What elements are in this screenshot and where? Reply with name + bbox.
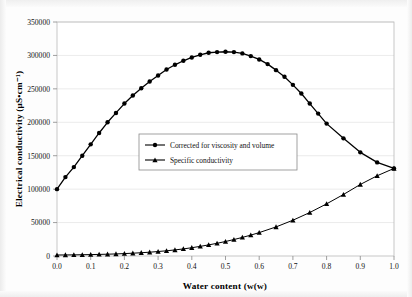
y-tick-label-7: 350000 <box>27 18 50 27</box>
x-tick-label-6: 0.6 <box>254 262 264 271</box>
series-0-marker-30 <box>308 101 312 105</box>
x-tick-label-2: 0.2 <box>120 262 130 271</box>
chart-legend: Corrected for viscosity and volumeSpecif… <box>139 134 297 170</box>
series-0-marker-12 <box>156 73 160 77</box>
line-chart: 0500001000001500002000002500003000003500… <box>0 0 412 297</box>
y-tick-label-0: 0 <box>46 252 50 261</box>
series-0-marker-29 <box>299 91 303 95</box>
series-0-marker-13 <box>164 67 168 71</box>
y-tick-label-5: 250000 <box>27 85 50 94</box>
series-0-marker-31 <box>316 111 320 115</box>
series-0-marker-14 <box>173 63 177 67</box>
series-0-marker-25 <box>265 62 269 66</box>
series-0-marker-3 <box>80 154 84 158</box>
series-0-marker-0 <box>55 187 59 191</box>
series-0-marker-8 <box>122 101 126 105</box>
series-0-marker-18 <box>206 51 210 55</box>
legend-label-1: Specific conductivity <box>170 156 233 165</box>
series-0-marker-33 <box>341 136 345 140</box>
series-0-marker-21 <box>232 50 236 54</box>
y-tick-label-6: 300000 <box>27 51 50 60</box>
y-axis-ticks: 0500001000001500002000002500003000003500… <box>27 18 57 261</box>
series-0-marker-17 <box>198 53 202 57</box>
series-0-marker-11 <box>147 79 151 83</box>
series-0-marker-24 <box>257 57 261 61</box>
series-0-marker-23 <box>249 54 253 58</box>
y-tick-label-1: 50000 <box>31 218 50 227</box>
series-0-marker-15 <box>181 59 185 63</box>
x-tick-label-7: 0.7 <box>288 262 298 271</box>
y-axis-title: Electrical conductivity (μS•cm⁻¹) <box>14 71 24 208</box>
x-axis-ticks: 0.00.10.20.30.40.50.60.70.80.91.0 <box>52 256 399 271</box>
series-0-marker-34 <box>358 150 362 154</box>
y-tick-label-4: 200000 <box>27 118 50 127</box>
y-tick-label-3: 150000 <box>27 152 50 161</box>
x-tick-label-4: 0.4 <box>187 262 197 271</box>
series-0-marker-1 <box>63 175 67 179</box>
x-tick-label-3: 0.3 <box>153 262 163 271</box>
x-tick-label-1: 0.1 <box>86 262 96 271</box>
series-0-marker-9 <box>131 93 135 97</box>
x-axis-title: Water content (w(w) <box>183 281 267 291</box>
x-tick-label-5: 0.5 <box>221 262 231 271</box>
series-0-marker-2 <box>72 165 76 169</box>
series-0-marker-32 <box>324 121 328 125</box>
series-0-marker-22 <box>240 51 244 55</box>
series-0-marker-27 <box>282 75 286 79</box>
series-0-marker-35 <box>375 160 379 164</box>
series-0-marker-26 <box>274 68 278 72</box>
series-0-marker-7 <box>114 111 118 115</box>
y-tick-label-2: 100000 <box>27 185 50 194</box>
x-tick-label-10: 1.0 <box>389 262 399 271</box>
series-0-marker-4 <box>89 142 93 146</box>
series-0-marker-28 <box>291 83 295 87</box>
legend-marker-0 <box>153 143 157 147</box>
series-0-marker-20 <box>223 50 227 54</box>
series-0-marker-5 <box>97 131 101 135</box>
chart-figure: 0500001000001500002000002500003000003500… <box>0 0 412 297</box>
legend-label-0: Corrected for viscosity and volume <box>170 141 275 150</box>
x-tick-label-0: 0.0 <box>52 262 62 271</box>
series-0-marker-10 <box>139 86 143 90</box>
series-0-marker-16 <box>190 55 194 59</box>
series-0-marker-6 <box>105 120 109 124</box>
x-tick-label-9: 0.9 <box>356 262 366 271</box>
series-0-marker-19 <box>215 50 219 54</box>
x-tick-label-8: 0.8 <box>322 262 332 271</box>
